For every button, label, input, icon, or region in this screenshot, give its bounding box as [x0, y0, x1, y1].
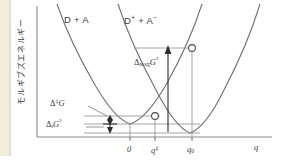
figure-container: モルギブズエネルギー D + A D+ + A− Δ‡G ΔrG° Δreorg… [0, 0, 281, 163]
marker-crossing-point [152, 113, 159, 120]
x-axis-label-text: q [254, 142, 258, 152]
y-axis-label: モルギブズエネルギー [15, 6, 26, 118]
curve-label-reactant-text: D + A [64, 14, 89, 25]
activation-g-symbol: G [58, 98, 64, 108]
label-reaction-free-energy: ΔrG° [46, 119, 62, 129]
xtick-label-0: 0 [127, 145, 131, 154]
leader-activation-label [88, 106, 107, 116]
bottom-margin [0, 156, 281, 163]
curve-label-reactant: D + A [64, 15, 89, 25]
xtick-label-q0: q0 [187, 145, 194, 155]
reaction-standard-symbol: ° [59, 119, 61, 125]
label-activation-free-energy: Δ‡G [50, 98, 65, 107]
xtick-label-q0-sub: 0 [191, 148, 194, 154]
label-reorganization-free-energy: ΔreorgG° [134, 57, 158, 67]
xtick-label-qdagger-sup: ‡ [155, 144, 158, 151]
marker-vertical-transition-point [189, 45, 196, 52]
curve-label-product-charge-minus: − [153, 14, 157, 21]
reorganization-subscript: reorg [139, 61, 149, 67]
curve-label-product-mid: + A [135, 15, 153, 26]
xtick-label-qdagger: q‡ [151, 145, 159, 154]
reorganization-arrow-head-up [165, 45, 172, 54]
x-axis-label: q [254, 143, 258, 152]
reorganization-standard-symbol: ° [156, 57, 158, 63]
curve-label-product: D+ + A− [124, 15, 157, 26]
xtick-label-0-base: 0 [127, 144, 131, 154]
